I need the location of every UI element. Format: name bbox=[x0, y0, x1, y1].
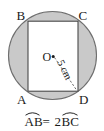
caption-term-bc: BC bbox=[62, 114, 79, 129]
vertex-label-d: D bbox=[79, 92, 88, 107]
caption-group: AB = 2 BC bbox=[25, 113, 79, 129]
figure-canvas: O 5 cm B C D A AB = 2 BC bbox=[0, 0, 104, 131]
center-label-o: O bbox=[43, 50, 52, 64]
vertex-label-b: B bbox=[17, 8, 26, 23]
caption-operator: = bbox=[43, 114, 50, 129]
geometry-figure: O 5 cm B C D A AB = 2 BC bbox=[0, 0, 104, 131]
caption-term-ab: AB bbox=[25, 114, 43, 129]
vertex-label-c: C bbox=[79, 8, 88, 23]
caption-coefficient: 2 bbox=[55, 114, 62, 129]
center-point-dot bbox=[52, 55, 55, 58]
vertex-label-a: A bbox=[17, 92, 27, 107]
